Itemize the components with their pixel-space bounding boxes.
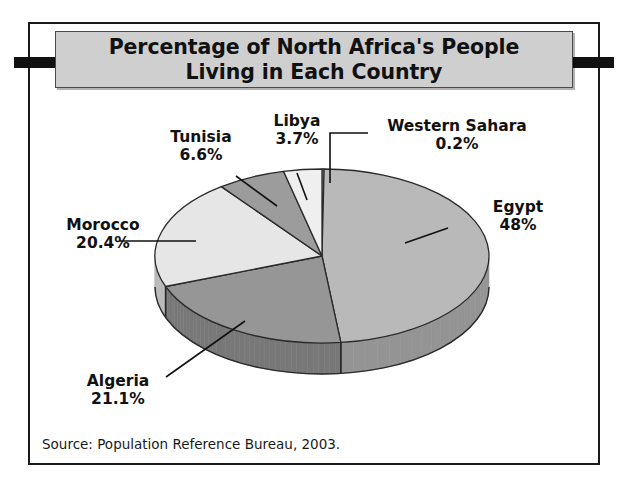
title-plate: Percentage of North Africa's People Livi… <box>55 31 573 88</box>
slice-label-egypt: Egypt 48% <box>466 199 570 234</box>
chart-title: Percentage of North Africa's People Livi… <box>109 35 520 85</box>
chart-figure: Percentage of North Africa's People Livi… <box>0 0 626 491</box>
source-note: Source: Population Reference Bureau, 200… <box>42 436 340 452</box>
slice-label-libya: Libya 3.7% <box>249 113 345 148</box>
slice-label-western-sahara: Western Sahara 0.2% <box>368 118 546 153</box>
slice-label-morocco: Morocco 20.4% <box>42 217 164 252</box>
title-tab-right <box>566 57 614 68</box>
slice-label-algeria: Algeria 21.1% <box>60 373 176 408</box>
slice-label-tunisia: Tunisia 6.6% <box>146 129 256 164</box>
